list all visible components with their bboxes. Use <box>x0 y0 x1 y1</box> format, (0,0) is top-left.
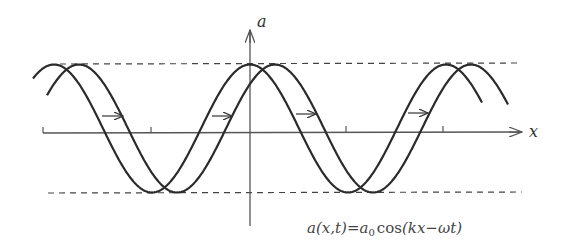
upper-amplitude-line <box>60 63 522 64</box>
y-axis-label: a <box>257 12 267 31</box>
lower-amplitude-line <box>48 192 522 193</box>
wave-initial <box>33 65 482 193</box>
wave-diagram: x a a(x,t)=a0cos(kx−ωt) <box>0 0 561 250</box>
x-axis-label: x <box>529 122 538 141</box>
wave-shifted <box>47 65 508 193</box>
x-axis <box>43 126 522 133</box>
wave-equation: a(x,t)=a0cos(kx−ωt) <box>307 219 462 238</box>
